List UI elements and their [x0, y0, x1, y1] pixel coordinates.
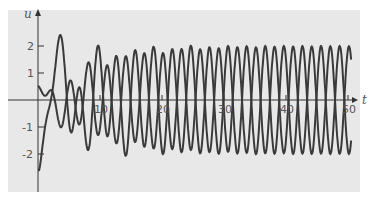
- svg-text:1: 1: [27, 67, 34, 80]
- svg-text:-1: -1: [22, 121, 33, 134]
- svg-text:40: 40: [280, 103, 294, 116]
- svg-text:50: 50: [342, 103, 356, 116]
- svg-text:-2: -2: [22, 148, 33, 161]
- chart: 1020304050-2-112 t u: [0, 0, 384, 203]
- svg-text:30: 30: [218, 103, 232, 116]
- svg-text:2: 2: [27, 40, 34, 53]
- x-axis-label: t: [362, 93, 367, 107]
- svg-text:20: 20: [156, 103, 170, 116]
- y-axis-label: u: [24, 7, 32, 21]
- svg-text:10: 10: [94, 103, 108, 116]
